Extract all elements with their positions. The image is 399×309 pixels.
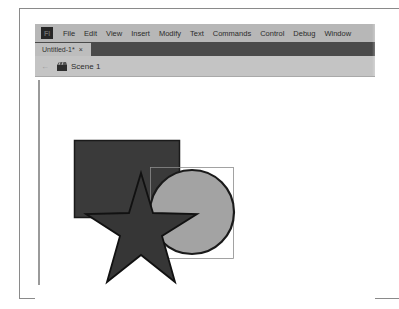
stage-shapes bbox=[0, 0, 384, 309]
